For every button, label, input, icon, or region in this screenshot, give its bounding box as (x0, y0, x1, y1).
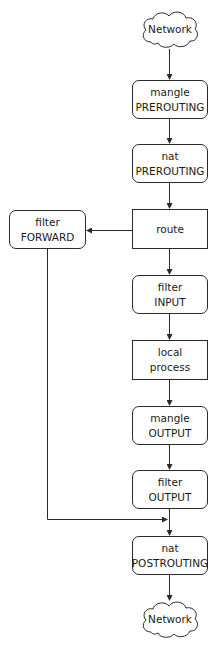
local-process-line1: local (158, 345, 182, 360)
filter-output-node: filter OUTPUT (132, 470, 208, 509)
filter-forward-chain: FORWARD (21, 230, 75, 245)
network-in-cloud: Network (139, 8, 201, 50)
network-out-cloud: Network (139, 598, 201, 640)
mangle-output-chain: OUTPUT (149, 426, 192, 441)
iptables-flow-diagram: Network mangle PREROUTING nat PREROUTING… (0, 0, 219, 650)
local-process-node: local process (132, 340, 208, 380)
filter-input-node: filter INPUT (132, 275, 208, 314)
mangle-output-node: mangle OUTPUT (132, 406, 208, 445)
filter-output-table: filter (158, 475, 182, 490)
filter-forward-table: filter (35, 215, 59, 230)
nat-postrouting-table: nat (161, 541, 178, 556)
network-out-label: Network (148, 613, 192, 625)
route-label: route (156, 222, 184, 237)
filter-input-table: filter (158, 280, 182, 295)
nat-postrouting-node: nat POSTROUTING (132, 536, 208, 575)
mangle-prerouting-node: mangle PREROUTING (132, 80, 208, 119)
route-node: route (132, 209, 208, 249)
nat-prerouting-chain: PREROUTING (135, 164, 204, 179)
filter-forward-node: filter FORWARD (9, 210, 86, 249)
nat-prerouting-node: nat PREROUTING (132, 144, 208, 183)
mangle-output-table: mangle (150, 411, 189, 426)
nat-postrouting-chain: POSTROUTING (132, 556, 208, 571)
mangle-prerouting-table: mangle (150, 85, 189, 100)
mangle-prerouting-chain: PREROUTING (135, 100, 204, 115)
filter-output-chain: OUTPUT (149, 490, 192, 505)
network-in-label: Network (148, 23, 192, 35)
filter-input-chain: INPUT (154, 295, 185, 310)
nat-prerouting-table: nat (161, 149, 178, 164)
local-process-line2: process (150, 360, 190, 375)
